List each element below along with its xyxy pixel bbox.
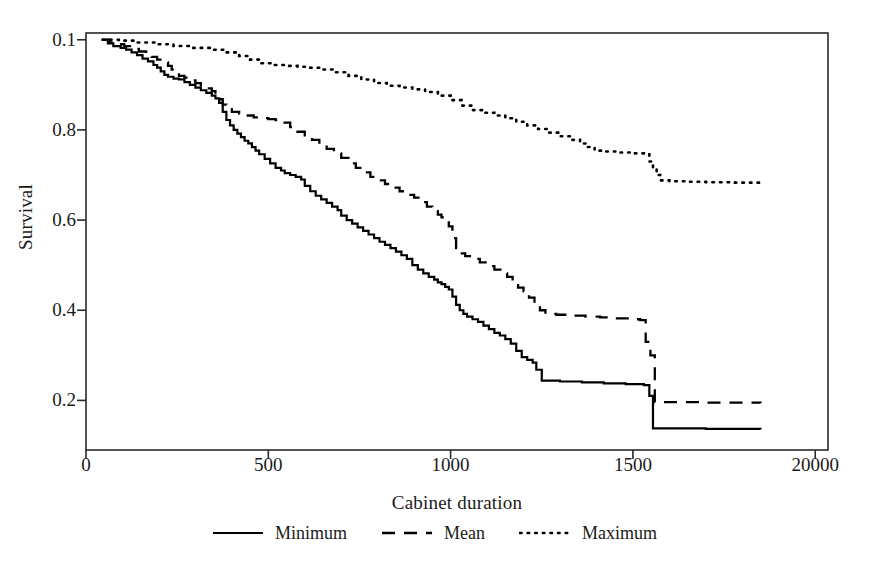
legend-swatch-dotted [519, 527, 571, 539]
legend-swatch-solid [212, 527, 264, 539]
x-tick-label-4: 20000 [755, 455, 869, 474]
x-axis-title: Cabinet duration [86, 492, 828, 514]
survival-chart-figure: Survival 0.10.80.60.40.2 050010001500200… [0, 0, 869, 575]
y-tick-label-3: 0.4 [22, 300, 76, 319]
x-tick-label-0: 0 [26, 455, 146, 474]
y-tick-label-2: 0.6 [22, 210, 76, 229]
y-tick-label-0: 0.1 [22, 30, 76, 49]
y-tick-label-4: 0.2 [22, 390, 76, 409]
x-tick-label-3: 1500 [573, 455, 693, 474]
legend-item-minimum: Minimum [212, 524, 347, 542]
legend-label: Minimum [275, 524, 347, 542]
legend-label: Mean [444, 524, 485, 542]
y-axis-tick-labels: 0.10.80.60.40.2 [10, 0, 76, 460]
legend-swatch-dashed [381, 527, 433, 539]
y-tick-label-1: 0.8 [22, 120, 76, 139]
plot-area [0, 0, 869, 575]
legend-label: Maximum [582, 524, 657, 542]
x-tick-label-1: 500 [208, 455, 328, 474]
x-tick-label-2: 1000 [391, 455, 511, 474]
legend-item-mean: Mean [381, 524, 485, 542]
chart-legend: MinimumMeanMaximum [0, 524, 869, 542]
legend-item-maximum: Maximum [519, 524, 657, 542]
